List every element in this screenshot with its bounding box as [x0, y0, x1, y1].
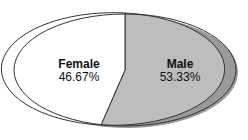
- label-male-pct: 53.33%: [160, 70, 201, 84]
- label-female-pct: 46.67%: [59, 70, 100, 84]
- label-female: Female 46.67%: [44, 58, 114, 84]
- label-male: Male 53.33%: [145, 58, 215, 84]
